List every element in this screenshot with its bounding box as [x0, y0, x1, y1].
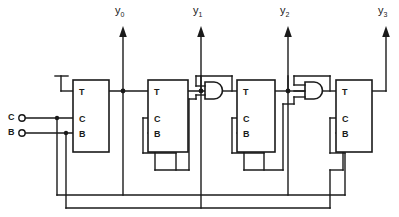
tie-high-stub: [55, 76, 73, 91]
svg-text:T: T: [79, 87, 85, 97]
svg-text:C: C: [342, 114, 349, 124]
output-label-y2: y2: [280, 4, 289, 18]
clock-input-terminal[interactable]: [19, 115, 73, 121]
output-label-y2-sub: 2: [286, 11, 290, 18]
flipflop-3[interactable]: T C B: [336, 80, 372, 152]
svg-text:B: B: [154, 129, 161, 139]
svg-text:C: C: [154, 114, 161, 124]
output-label-y0-sub: 0: [121, 11, 125, 18]
flipflop-1[interactable]: T C B: [148, 80, 188, 152]
clock-input-label: C: [8, 112, 15, 122]
svg-text:C: C: [79, 114, 86, 124]
svg-text:T: T: [243, 87, 249, 97]
output-label-y3-sub: 3: [384, 11, 388, 18]
and-gate-2: [283, 76, 336, 170]
circuit-diagram-canvas: T C B T C B T C B T C B y0 y1 y2: [0, 0, 399, 217]
flipflop-2[interactable]: T C B: [237, 80, 275, 152]
output-label-y0: y0: [115, 4, 124, 18]
output-arrow-y3: [382, 26, 390, 91]
svg-text:T: T: [342, 87, 348, 97]
net-y1: [188, 89, 222, 208]
output-arrow-y0: [119, 26, 127, 91]
flipflop-0[interactable]: T C B: [73, 80, 109, 152]
net-y0: [109, 89, 148, 195]
output-label-y1-sub: 1: [199, 11, 203, 18]
svg-text:C: C: [243, 114, 250, 124]
enable-input-label: B: [8, 127, 15, 137]
output-label-y1: y1: [193, 4, 202, 18]
svg-text:B: B: [79, 129, 86, 139]
output-label-y3: y3: [378, 4, 387, 18]
svg-text:B: B: [342, 129, 349, 139]
svg-text:B: B: [243, 129, 250, 139]
svg-text:T: T: [154, 87, 160, 97]
and-gate-1: [189, 76, 237, 99]
